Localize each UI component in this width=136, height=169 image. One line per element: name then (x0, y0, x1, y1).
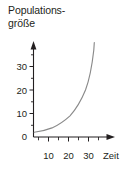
chart-plot-area: 0 10 20 30 10 20 30 Zeit (0, 0, 136, 169)
y-axis-major-ticks (30, 67, 34, 114)
chart-screenshot: Populations- größe (0, 0, 136, 169)
y-axis (31, 41, 37, 137)
arrow-right-icon (107, 134, 116, 140)
y-tick-label-20: 20 (16, 85, 27, 96)
x-tick-label-20: 20 (63, 150, 74, 161)
population-growth-curve (34, 43, 94, 133)
arrow-up-icon (31, 41, 37, 50)
x-axis (34, 134, 116, 140)
x-axis-major-ticks (49, 137, 89, 142)
y-tick-label-10: 10 (16, 108, 27, 119)
x-tick-label-10: 10 (43, 150, 54, 161)
x-axis-label: Zeit (103, 150, 119, 161)
x-tick-label-30: 30 (83, 150, 94, 161)
y-tick-label-0: 0 (22, 131, 27, 142)
y-tick-label-30: 30 (16, 61, 27, 72)
